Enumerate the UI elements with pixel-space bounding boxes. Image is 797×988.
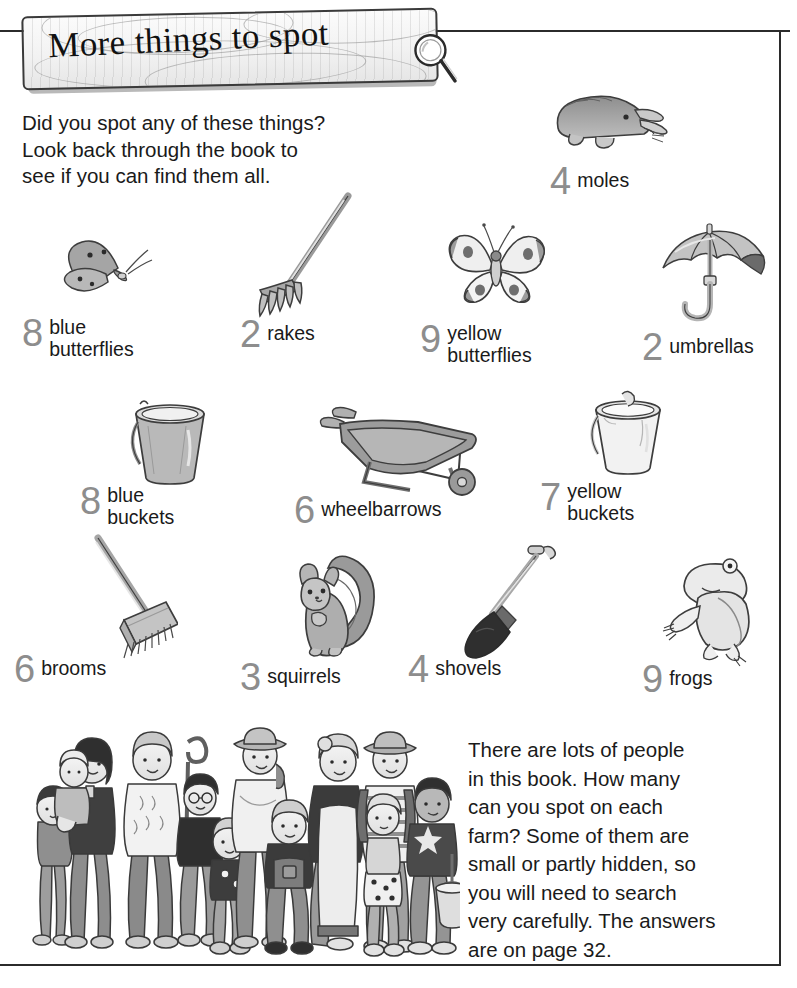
squirrel-illustration (272, 548, 392, 668)
umbrella-illustration (655, 222, 775, 327)
item-label: blue buckets (107, 484, 174, 528)
book-page: More things to spot Did you spot any of … (0, 0, 797, 988)
item-count: 9 (642, 662, 663, 696)
item-caption: 9 frogs (642, 662, 713, 696)
intro-paragraph: Did you spot any of these things? Look b… (22, 110, 362, 190)
item-label: yellow buckets (567, 480, 634, 524)
item-caption: 3 squirrels (240, 660, 341, 694)
blue-butterfly-illustration (56, 228, 166, 308)
item-label: blue butterflies (49, 316, 134, 360)
shovel-illustration (450, 540, 580, 665)
item-label: moles (577, 164, 629, 191)
outro-line: farm? Some of them are (468, 822, 780, 851)
frog-illustration (658, 552, 778, 667)
outro-line: are on page 32. (468, 936, 780, 965)
item-caption: 4 moles (550, 164, 629, 198)
outro-line: small or partly hidden, so (468, 850, 780, 879)
outro-line: very carefully. The answers (468, 907, 780, 936)
item-label: wheelbarrows (321, 493, 441, 520)
broom-illustration (28, 532, 178, 662)
item-label: rakes (267, 317, 315, 344)
item-count: 2 (642, 330, 663, 364)
outro-line: you will need to search (468, 879, 780, 908)
item-label: shovels (435, 652, 501, 679)
title-sign: More things to spot (22, 12, 442, 90)
blue-bucket-illustration (118, 390, 228, 490)
page-border-bottom (0, 964, 781, 966)
item-count: 8 (22, 316, 43, 350)
intro-line: Did you spot any of these things? (22, 110, 362, 137)
item-count: 3 (240, 660, 261, 694)
group-of-farm-people-illustration (28, 712, 460, 964)
rake-illustration (240, 190, 380, 325)
outro-line: in this book. How many (468, 765, 780, 794)
mole-illustration (540, 82, 680, 160)
item-count: 6 (14, 652, 35, 686)
wheelbarrow-illustration (310, 398, 490, 498)
item-caption: 2 umbrellas (642, 330, 754, 364)
yellow-butterfly-illustration (440, 218, 560, 318)
outro-line: There are lots of people (468, 736, 780, 765)
item-count: 9 (420, 322, 441, 356)
item-caption: 4 shovels (408, 652, 501, 686)
item-caption: 2 rakes (240, 317, 315, 351)
item-caption: 6 wheelbarrows (294, 493, 441, 527)
item-caption: 9 yellow butterflies (420, 322, 532, 366)
item-label: umbrellas (669, 330, 754, 357)
item-label: brooms (41, 652, 106, 679)
item-count: 8 (80, 484, 101, 518)
item-label: squirrels (267, 660, 341, 687)
item-caption: 8 blue buckets (80, 484, 174, 528)
item-label: yellow butterflies (447, 322, 532, 366)
yellow-bucket-illustration (578, 388, 683, 483)
intro-line: see if you can find them all. (22, 163, 362, 190)
item-count: 4 (408, 652, 429, 686)
item-count: 2 (240, 317, 261, 351)
item-label: frogs (669, 662, 712, 689)
item-caption: 8 blue butterflies (22, 316, 134, 360)
item-count: 4 (550, 164, 571, 198)
item-count: 7 (540, 480, 561, 514)
outro-line: can you spot on each (468, 793, 780, 822)
item-caption: 6 brooms (14, 652, 106, 686)
item-count: 6 (294, 493, 315, 527)
item-caption: 7 yellow buckets (540, 480, 634, 524)
outro-paragraph: There are lots of people in this book. H… (468, 736, 780, 964)
intro-line: Look back through the book to (22, 137, 362, 164)
magnifying-glass-icon (405, 29, 464, 94)
